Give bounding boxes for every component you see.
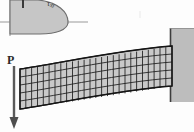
shear-stress-label: τxy bbox=[47, 0, 55, 8]
shear-stress-subscript: xy bbox=[50, 2, 55, 8]
load-arrow bbox=[10, 66, 19, 129]
wall-support bbox=[170, 28, 194, 102]
load-label: P bbox=[7, 54, 15, 66]
scan-speck bbox=[139, 11, 141, 18]
shear-stress-subfigure bbox=[0, 0, 88, 36]
load-arrow-head-icon bbox=[10, 117, 19, 129]
figure-canvas bbox=[0, 0, 194, 132]
beam-mesh-figure: P τxy bbox=[0, 0, 194, 132]
wall-block bbox=[170, 28, 194, 102]
shear-stress-profile bbox=[10, 0, 68, 34]
